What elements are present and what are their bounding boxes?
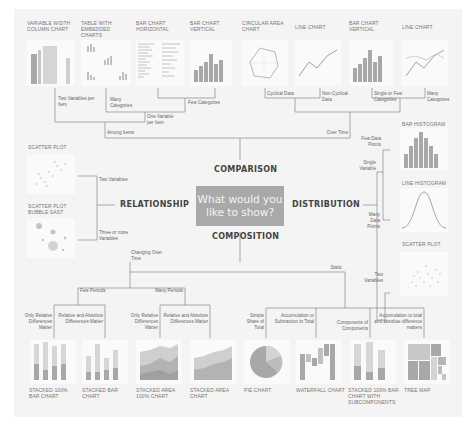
heading-relationship: RELATIONSHIP (120, 200, 189, 209)
chart-title-line-2: LINE CHART (402, 24, 447, 30)
bubble-chart-icon[interactable] (27, 218, 75, 258)
condition-many-categories: Many Categories (110, 97, 140, 109)
condition-accumulation-total-absolute: Accumulation to total and absolute diffe… (372, 313, 422, 331)
stacked-100-bar-icon[interactable] (30, 340, 76, 384)
chart-title-waterfall: WATERFALL CHART (296, 387, 346, 393)
variable-width-column-chart-icon[interactable] (27, 40, 75, 86)
chart-title-bar-vertical-1: BAR CHART VERTICAL (190, 20, 235, 32)
heading-distribution: DISTRIBUTION (292, 200, 360, 209)
waterfall-chart-icon[interactable] (296, 340, 342, 384)
condition-cyclical-data: Cyclical Data (267, 91, 307, 97)
condition-few-relative-absolute: Relative and Absolute Differences Matter (58, 313, 103, 325)
chart-title-stacked-100-bar: STACKED 100% BAR CHART (29, 387, 79, 399)
chart-title-bar-horizontal: BAR CHART HORIZONTAL (136, 20, 186, 32)
central-question: What would you like to show? (196, 193, 284, 219)
heading-composition: COMPOSITION (212, 232, 279, 241)
condition-single-or-few-categories: Single or Few Categories (374, 91, 408, 103)
stacked-bar-icon[interactable] (82, 340, 128, 384)
chart-title-stacked-area-100: STACKED AREA 100% CHART (136, 387, 186, 399)
chart-title-scatter-plot: SCATTER PLOT (28, 144, 78, 150)
chart-title-stacked-100-subcomponents: STACKED 100% BAR CHART WITH SUBCOMPONENT… (348, 387, 400, 405)
bar-chart-horizontal-icon[interactable] (136, 40, 184, 86)
condition-two-variables-distribution: Two Variables (355, 272, 383, 284)
chart-title-scatter-plot-distribution: SCATTER PLOT (402, 241, 452, 247)
branch-over-time: Over Time (300, 130, 348, 136)
chart-title-circular-area: CIRCULAR AREA CHART (242, 20, 287, 32)
chart-title-pie: PIE CHART (244, 387, 294, 393)
condition-three-or-more: Three or more Variables (99, 230, 133, 242)
heading-comparison: COMPARISON (214, 165, 277, 174)
chart-title-bar-histogram: BAR HISTOGRAM (402, 121, 452, 127)
condition-many-only-relative: Only Relative Differences Matter (124, 313, 158, 331)
branch-static: Static (310, 265, 342, 271)
chart-title-line-histogram: LINE HISTOGRAM (402, 180, 452, 186)
chart-title-bar-vertical-2: BAR CHART VERTICAL (349, 20, 394, 32)
stacked-100-subcomponents-icon[interactable] (350, 340, 396, 384)
condition-few-categories: Few Categories (188, 100, 228, 106)
tree-map-icon[interactable] (404, 340, 450, 384)
bar-chart-vertical-icon[interactable] (190, 40, 232, 86)
pie-chart-icon[interactable] (244, 340, 290, 384)
condition-one-variable-per-item: One Variable per Item (147, 114, 181, 126)
line-chart-many-icon[interactable] (402, 40, 448, 86)
line-chart-icon[interactable] (295, 40, 341, 86)
chart-title-stacked-bar: STACKED BAR CHART (82, 387, 132, 399)
condition-simple-share: Simple Share of Total (240, 313, 264, 331)
condition-two-variables-per-item: Two Variables per Item (58, 96, 98, 108)
bar-histogram-icon[interactable] (400, 128, 448, 170)
condition-many-relative-absolute: Relative and Absolute Differences Matter (162, 313, 208, 325)
condition-accumulation-subtraction: Accumulation or Subtraction to Total (270, 313, 314, 325)
central-question-box: What would you like to show? (196, 186, 284, 226)
stacked-area-100-icon[interactable] (136, 340, 182, 384)
branch-many-periods: Many Periods (155, 288, 195, 294)
condition-non-cyclical-data: Non-Cyclical Data (322, 91, 350, 103)
circular-area-chart-icon[interactable] (242, 40, 288, 86)
condition-many-data-points: Many Data Points (360, 212, 380, 230)
chart-title-line-1: LINE CHART (295, 24, 340, 30)
condition-few-only-relative: Only Relative Differences Matter (18, 313, 52, 331)
branch-changing-over-time: Changing Over Time (131, 250, 163, 262)
table-embedded-charts-icon[interactable] (81, 40, 131, 86)
condition-few-data-points: Few Data Points (355, 136, 381, 148)
condition-single-variable: Single Variable (352, 160, 376, 172)
branch-few-periods: Few Periods (80, 288, 120, 294)
scatter-plot-distribution-icon[interactable] (400, 252, 448, 296)
condition-two-variables: Two Variables (99, 177, 129, 183)
condition-many-categories-time: Many Categories (427, 91, 457, 103)
chart-title-variable-width-column: VARIABLE WIDTH COLUMN CHART (27, 20, 77, 32)
chart-title-scatter-bubble: SCATTER PLOT BUBBLE SAST (28, 203, 78, 215)
line-histogram-icon[interactable] (400, 188, 448, 232)
branch-among-items: Among Items (107, 130, 147, 136)
chart-title-stacked-area: STACKED AREA CHART (190, 387, 240, 399)
condition-components-of-components: Components of Components (320, 320, 368, 332)
chart-title-table-embedded: TABLE WITH EMBEDDED CHARTS (81, 20, 131, 38)
bar-chart-vertical-icon-2[interactable] (349, 40, 393, 86)
chart-title-tree-map: TREE MAP (404, 387, 454, 393)
stacked-area-icon[interactable] (190, 340, 236, 384)
scatter-plot-icon[interactable] (27, 154, 75, 194)
